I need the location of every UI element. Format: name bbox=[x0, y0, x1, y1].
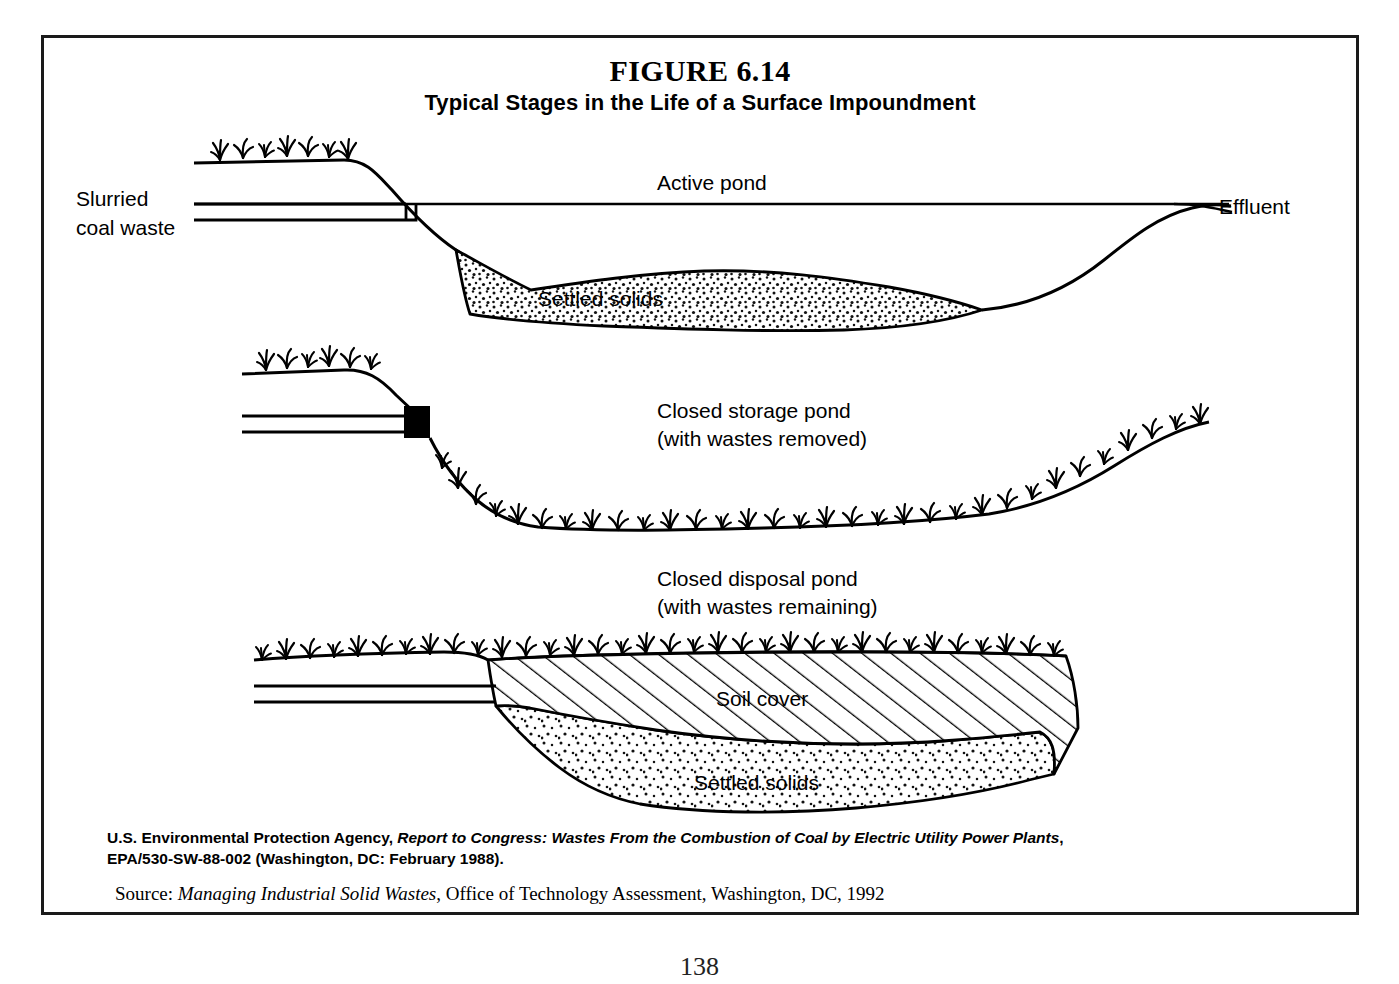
grass-basin-2 bbox=[436, 404, 1208, 530]
figure-border-box: FIGURE 6.14 Typical Stages in the Life o… bbox=[41, 35, 1359, 915]
label-closed-disposal-line1: Closed disposal pond bbox=[657, 567, 858, 590]
impoundment-diagram: Slurried coal waste Active pond Settled … bbox=[44, 38, 1356, 912]
label-settled-solids-3: Settled solids bbox=[694, 771, 819, 794]
grass-crest-left-1 bbox=[211, 136, 356, 160]
settled-solids-1 bbox=[456, 250, 982, 331]
right-bank-1 bbox=[982, 205, 1231, 310]
panel-active-pond: Slurried coal waste Active pond Settled … bbox=[76, 136, 1290, 331]
epa-comma: , bbox=[1059, 829, 1063, 846]
panel-closed-storage-pond: Closed storage pond (with wastes removed… bbox=[242, 346, 1209, 530]
label-active-pond: Active pond bbox=[657, 171, 767, 194]
pipe-plug bbox=[404, 406, 430, 438]
page-number: 138 bbox=[0, 952, 1399, 982]
source-prefix: Source: bbox=[115, 883, 178, 904]
plugged-pipe-2 bbox=[242, 406, 430, 438]
source-citation: Source: Managing Industrial Solid Wastes… bbox=[115, 881, 1317, 907]
basin-outline-2 bbox=[242, 370, 412, 410]
page: FIGURE 6.14 Typical Stages in the Life o… bbox=[0, 0, 1399, 984]
epa-report-title: Report to Congress: Wastes From the Comb… bbox=[397, 829, 1059, 846]
label-slurried-line1: Slurried bbox=[76, 187, 148, 210]
label-effluent: Effluent bbox=[1219, 195, 1290, 218]
inflow-pipe-1 bbox=[194, 204, 416, 220]
label-slurried-line2: coal waste bbox=[76, 216, 175, 239]
source-title: Managing Industrial Solid Wastes bbox=[178, 883, 436, 904]
source-rest: , Office of Technology Assessment, Washi… bbox=[436, 883, 884, 904]
label-soil-cover: Soil cover bbox=[716, 687, 808, 710]
panel-closed-disposal-pond: Closed disposal pond (with wastes remain… bbox=[254, 567, 1078, 812]
epa-agency: U.S. Environmental Protection Agency, bbox=[107, 829, 397, 846]
label-closed-storage-line1: Closed storage pond bbox=[657, 399, 851, 422]
label-settled-solids-1: Settled solids bbox=[538, 287, 663, 310]
epa-document-number: EPA/530-SW-88-002 (Washington, DC: Febru… bbox=[107, 850, 504, 867]
grass-crest-left-2 bbox=[257, 346, 380, 370]
buried-pipe-3 bbox=[254, 686, 496, 702]
epa-citation: U.S. Environmental Protection Agency, Re… bbox=[107, 827, 1317, 869]
label-closed-storage-line2: (with wastes removed) bbox=[657, 427, 867, 450]
caption-block: U.S. Environmental Protection Agency, Re… bbox=[107, 827, 1317, 907]
label-closed-disposal-line2: (with wastes remaining) bbox=[657, 595, 878, 618]
